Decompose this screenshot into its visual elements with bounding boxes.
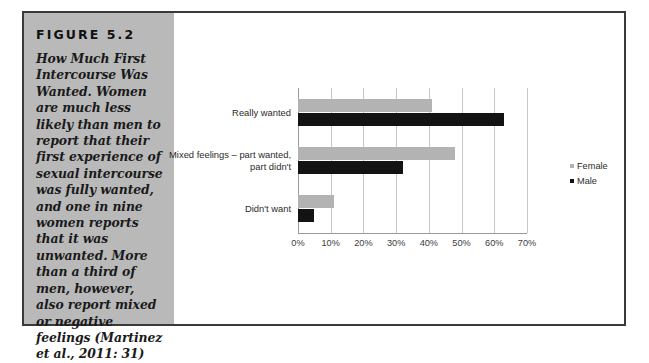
category-label: Really wanted	[141, 107, 291, 119]
bar-group: Really wanted	[298, 99, 527, 126]
bar-male	[298, 161, 403, 174]
gridline-70	[527, 88, 528, 233]
figure-number-label: FIGURE 5.2	[36, 27, 164, 42]
bar-female	[298, 195, 334, 208]
bar-male	[298, 209, 314, 222]
x-axis-tick-label: 40%	[420, 238, 438, 248]
x-axis-tick-label: 10%	[322, 238, 340, 248]
x-axis-tick-label: 0%	[291, 238, 304, 248]
legend-item-female[interactable]: Female	[570, 161, 608, 171]
x-axis-line	[298, 233, 527, 234]
bar-chart-plot: 0%10%20%30%40%50%60%70%Really wantedMixe…	[298, 88, 527, 233]
category-label: Mixed feelings – part wanted, part didn'…	[141, 149, 291, 172]
legend-item-male[interactable]: Male	[570, 176, 608, 186]
figure-frame: FIGURE 5.2 How Much First Intercourse Wa…	[22, 11, 626, 326]
chart-legend: FemaleMale	[570, 161, 608, 191]
x-axis-tick-label: 20%	[354, 238, 372, 248]
x-axis-tick-label: 30%	[387, 238, 405, 248]
bar-female	[298, 99, 432, 112]
legend-label: Female	[577, 161, 608, 171]
bar-male	[298, 113, 504, 126]
bar-female	[298, 147, 455, 160]
bar-group: Didn't want	[298, 195, 527, 222]
legend-swatch-icon	[570, 164, 574, 168]
category-label: Didn't want	[141, 203, 291, 215]
x-axis-tick-label: 60%	[485, 238, 503, 248]
chart-area: 0%10%20%30%40%50%60%70%Really wantedMixe…	[174, 13, 624, 324]
x-axis-tick-label: 50%	[452, 238, 470, 248]
bar-group: Mixed feelings – part wanted, part didn'…	[298, 147, 527, 174]
legend-label: Male	[577, 176, 597, 186]
x-axis-tick-label: 70%	[518, 238, 536, 248]
legend-swatch-icon	[570, 179, 574, 183]
